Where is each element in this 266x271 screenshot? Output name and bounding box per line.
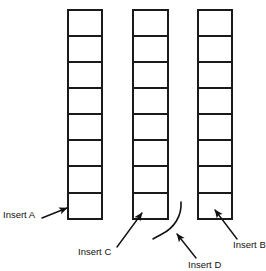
label-insert-d: Insert D [188,259,221,270]
column-right [198,10,232,219]
insert-d-leader-arrow [177,234,196,258]
insert-c-leader-arrow [117,213,142,247]
column-middle [133,10,168,219]
insert-diagram: Insert A Insert C Insert D Insert B [0,0,266,271]
figure-canvas: Insert A Insert C Insert D Insert B [0,0,266,271]
label-insert-c: Insert C [78,246,111,257]
label-insert-a: Insert A [3,209,36,220]
label-insert-b: Insert B [233,239,266,250]
insert-a-leader-arrow [42,208,67,218]
column-left [68,10,102,219]
